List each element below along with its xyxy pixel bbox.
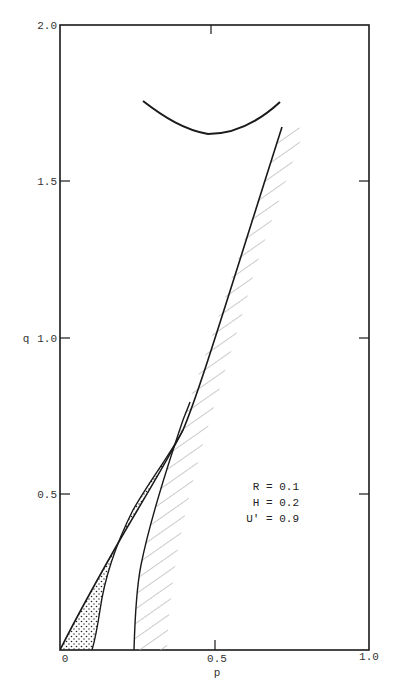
y-tick-label: 1.0 — [37, 333, 57, 345]
plot-area — [60, 101, 305, 650]
chart-canvas: 0.5 1.0 1.5 2.0 q 0 0.5 1.0 p R = 0.1 H … — [0, 0, 394, 693]
hatched-region — [134, 127, 305, 650]
y-tick-label: 2.0 — [37, 20, 57, 32]
x-axis-label: p — [214, 667, 221, 679]
upper-arc-curve — [143, 101, 280, 134]
x-tick-label: 0.5 — [207, 653, 227, 665]
x-tick-label: 1.0 — [359, 651, 379, 663]
x-tick-label: 0 — [62, 653, 69, 665]
annotation-H: H = 0.2 — [253, 497, 299, 509]
y-tick-label: 1.5 — [37, 176, 57, 188]
annotation-U: U' = 0.9 — [246, 513, 299, 525]
annotation-R: R = 0.1 — [253, 481, 300, 493]
y-axis-label: q — [23, 333, 30, 345]
parameter-annotations: R = 0.1 H = 0.2 U' = 0.9 — [246, 481, 299, 525]
y-tick-label: 0.5 — [37, 489, 57, 501]
